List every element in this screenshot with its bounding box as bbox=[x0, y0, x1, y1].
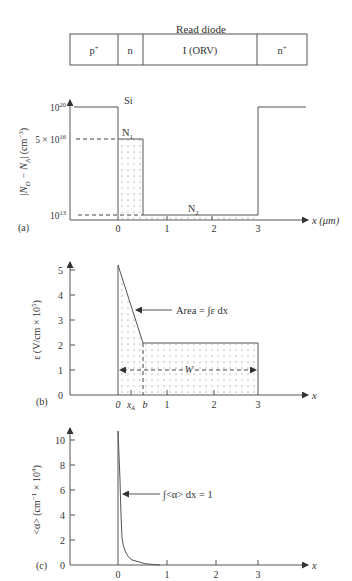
alpha-curve bbox=[118, 431, 160, 565]
panel-tag-b: (b) bbox=[36, 396, 48, 408]
xtick-3: 3 bbox=[256, 399, 261, 410]
xtick-0: 0 bbox=[116, 399, 121, 410]
y-axis-label: |ND − NA| (cm−3) bbox=[17, 128, 32, 196]
ytick-4: 4 bbox=[58, 290, 63, 301]
ytick-1e13: 1013 bbox=[50, 209, 66, 221]
xtick-xa: xA bbox=[126, 400, 135, 411]
y-axis-label: <α> (cm−1 × 104) bbox=[30, 465, 43, 535]
ytick-6: 6 bbox=[60, 485, 65, 496]
x-axis-label: x bbox=[311, 390, 317, 401]
y-axis-label: ε (V/cm × 105) bbox=[30, 300, 43, 360]
diode-title: Read diode bbox=[176, 23, 226, 35]
ytick-10: 10 bbox=[55, 435, 65, 446]
ytick-2: 2 bbox=[60, 535, 65, 546]
panel-tag-a: (a) bbox=[18, 222, 29, 234]
doping-profile-line bbox=[74, 107, 306, 215]
ytick-2: 2 bbox=[58, 340, 63, 351]
xtick-0: 0 bbox=[116, 223, 121, 234]
xtick-1: 1 bbox=[165, 569, 170, 580]
region-n-plus: n+ bbox=[277, 44, 286, 56]
ytick-3: 3 bbox=[58, 315, 63, 326]
xtick-b: b bbox=[143, 399, 148, 410]
panel-tag-c: (c) bbox=[36, 560, 47, 572]
xtick-0: 0 bbox=[116, 569, 121, 580]
ytick-4: 4 bbox=[60, 510, 65, 521]
xtick-1: 1 bbox=[165, 399, 170, 410]
ytick-5: 5 bbox=[58, 265, 63, 276]
ytick-1: 1 bbox=[58, 365, 63, 376]
region-n: n bbox=[127, 45, 133, 56]
integral-annotation: ∫<α> dx = 1 bbox=[162, 489, 213, 501]
xtick-3: 3 bbox=[256, 223, 261, 234]
area-annotation: Area = ∫ε dx bbox=[176, 305, 229, 317]
ytick-0: 0 bbox=[60, 560, 65, 571]
region-p-plus: p+ bbox=[89, 44, 98, 56]
xtick-2: 2 bbox=[212, 223, 217, 234]
xtick-2: 2 bbox=[214, 569, 219, 580]
panel-c-ionization-coefficient: 0 2 4 6 8 10 0 1 2 3 x ∫<α> dx = 1 <α> (… bbox=[30, 428, 317, 580]
ytick-1e20: 1020 bbox=[50, 101, 66, 113]
ytick-8: 8 bbox=[60, 460, 65, 471]
x-axis-label: x (μm) bbox=[311, 215, 340, 227]
xtick-1: 1 bbox=[165, 223, 170, 234]
label-si: Si bbox=[124, 95, 133, 106]
x-axis-label: x bbox=[311, 560, 317, 571]
read-diode-structure: Read diode p+ n I (ORV) n+ bbox=[70, 23, 307, 65]
xtick-2: 2 bbox=[212, 399, 217, 410]
panel-a-doping-profile: 1020 5 × 1016 1013 0 1 2 3 x (μm) Si N1 … bbox=[17, 95, 340, 234]
xtick-3: 3 bbox=[256, 569, 261, 580]
panel-b-electric-field: 0 1 2 3 4 5 0 xA b 1 2 3 x Area = ∫ε dx … bbox=[30, 262, 317, 411]
region-intrinsic: I (ORV) bbox=[183, 45, 218, 57]
ytick-0: 0 bbox=[58, 390, 63, 401]
ytick-5e16: 5 × 1016 bbox=[35, 133, 67, 145]
